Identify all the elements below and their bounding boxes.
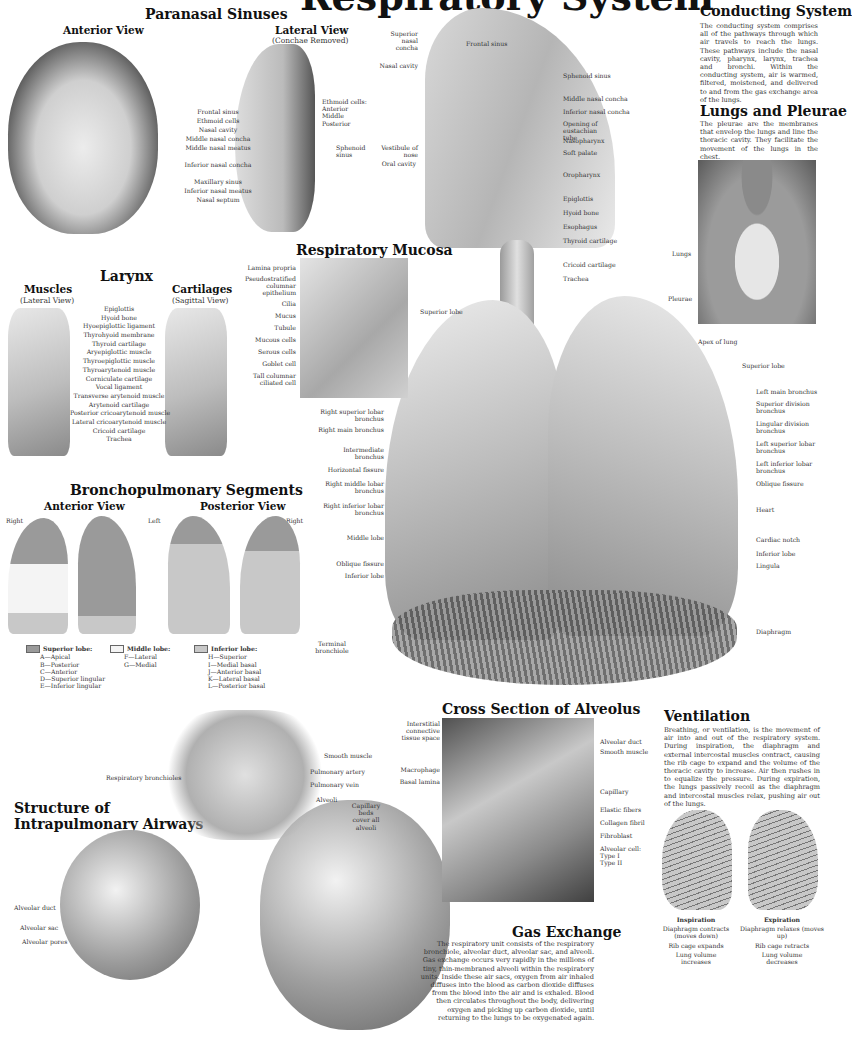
gas-exchange-text: The respiratory unit consists of the res… xyxy=(416,940,594,1022)
face-anterior-illustration xyxy=(8,42,158,234)
alveolus-illustration xyxy=(442,718,594,902)
smooth-muscle-label: Smooth muscle xyxy=(324,752,372,759)
pleurae-title: Lungs and Pleurae xyxy=(700,103,847,119)
mucosa-title: Respiratory Mucosa xyxy=(296,242,453,258)
segment-lung-posterior-right xyxy=(240,516,300,634)
anterior-view-title: Anterior View xyxy=(63,24,144,36)
cartilages-note: (Sagittal View) xyxy=(172,296,228,305)
alveolar-duct-label: Alveolar duct xyxy=(14,904,56,911)
paranasal-labels: Frontal sinus Ethmoid cells Nasal cavity… xyxy=(178,108,258,205)
alveolar-pores-label: Alveolar pores xyxy=(22,938,67,945)
lateral-view-title: Lateral View xyxy=(275,24,348,36)
gas-exchange-title: Gas Exchange xyxy=(512,924,621,940)
larynx-labels: Epiglottis Hyoid bone Hyoepiglottic liga… xyxy=(70,305,168,444)
respiratory-bronchioles-label: Respiratory bronchioles xyxy=(106,774,181,781)
expiration-illustration xyxy=(748,810,818,910)
alveolus-left-labels: Interstitial connective tissue space Mac… xyxy=(400,720,440,785)
chest-ribcage-illustration xyxy=(698,160,816,324)
pulmonary-vein-label: Pulmonary vein xyxy=(310,781,359,788)
segments-right-label-1: Right xyxy=(6,517,23,524)
inspiration-illustration xyxy=(662,810,732,910)
alveolar-sac-label: Alveolar sac xyxy=(20,924,58,931)
cartilages-title: Cartilages xyxy=(172,283,232,295)
superior-lobe-right-label: Superior lobe xyxy=(420,308,463,315)
larynx-title: Larynx xyxy=(100,268,153,284)
ventilation-text: Breathing, or ventilation, is the moveme… xyxy=(664,726,820,808)
segments-legend-superior: Superior lobe: A—Apical B—Posterior C—An… xyxy=(26,645,105,689)
segment-lung-anterior-left xyxy=(78,516,136,634)
mucosa-illustration xyxy=(300,258,408,398)
muscles-title: Muscles xyxy=(24,283,72,295)
ventilation-title: Ventilation xyxy=(664,708,750,724)
expiration-caption: Expiration Diaphragm relaxes (moves up) … xyxy=(740,916,824,965)
diaphragm-illustration xyxy=(392,590,737,685)
segments-legend-inferior: Inferior lobe: H—Superior I—Medial basal… xyxy=(194,645,265,689)
right-lung-illustration xyxy=(385,300,565,640)
head-left-labels: Superior nasal concha Nasal cavity Vesti… xyxy=(378,30,418,167)
segments-legend-middle: Middle lobe: F—Lateral G—Medial xyxy=(110,645,170,668)
lungs-label: Lungs xyxy=(672,250,691,257)
inspiration-caption: Inspiration Diaphragm contracts (moves d… xyxy=(654,916,738,965)
sphenoid-sinus-label: Sphenoid sinus xyxy=(336,144,366,158)
segments-anterior-title: Anterior View xyxy=(44,500,125,512)
bronchiole-branches xyxy=(160,710,330,840)
mucosa-labels: Lamina propria Pseudostratified columnar… xyxy=(238,264,296,386)
conducting-text: The conducting system comprises all of t… xyxy=(700,22,818,104)
alveoli-label: Alveoli xyxy=(316,796,337,803)
pulmonary-artery-label: Pulmonary artery xyxy=(310,768,365,775)
paranasal-title: Paranasal Sinuses xyxy=(145,6,288,22)
segment-lung-posterior-left xyxy=(168,516,230,634)
head-right-labels: Sphenoid sinus Middle nasal concha Infer… xyxy=(563,72,630,282)
conducting-title: Conducting System xyxy=(700,3,852,19)
alveolus-title: Cross Section of Alveolus xyxy=(442,701,640,717)
lung-left-labels: Right superior lobar bronchus Right main… xyxy=(318,408,384,579)
larynx-cartilages-illustration xyxy=(165,308,227,456)
lateral-labels: Ethmoid cells: Anterior Middle Posterior xyxy=(322,98,367,127)
lung-right-labels: Apex of lung Superior lobe Left main bro… xyxy=(730,338,810,635)
segments-posterior-title: Posterior View xyxy=(200,500,285,512)
alveoli-cluster-left xyxy=(60,830,200,980)
frontal-sinus-label: Frontal sinus xyxy=(466,40,507,47)
pleurae-label: Pleurae xyxy=(668,295,692,302)
pleurae-text: The pleurae are the membranes that envel… xyxy=(700,120,818,161)
terminal-bronchiole-label: Terminal bronchiole xyxy=(312,640,352,654)
capillary-beds-label: Capillary beds cover all alveoli xyxy=(349,802,383,831)
segments-left-label: Left xyxy=(148,517,161,524)
muscles-note: (Lateral View) xyxy=(20,296,74,305)
larynx-muscles-illustration xyxy=(8,308,70,456)
segments-title: Bronchopulmonary Segments xyxy=(70,482,303,498)
alveolus-right-labels: Alveolar duct Smooth muscle Capillary El… xyxy=(600,738,648,867)
segment-lung-anterior-right xyxy=(8,518,68,634)
